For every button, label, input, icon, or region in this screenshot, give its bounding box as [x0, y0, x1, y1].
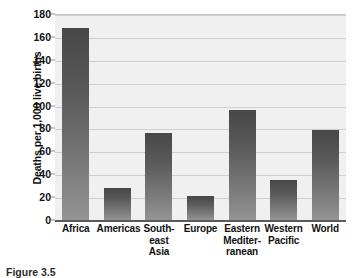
y-tick-label: 140 — [5, 55, 51, 66]
bar — [62, 28, 89, 220]
x-tick-label-line: World — [304, 223, 346, 235]
y-tick-label: 40 — [5, 169, 51, 180]
x-tick-label-line: east — [138, 235, 180, 247]
x-tick-label: Europe — [180, 223, 222, 235]
y-tick-label: 120 — [5, 77, 51, 88]
y-tick-label: 160 — [5, 32, 51, 43]
x-tick-label-line: Asia — [138, 246, 180, 258]
x-tick-label-line: Pacific — [263, 235, 305, 247]
x-tick-label: Africa — [55, 223, 97, 235]
x-tick-label: Americas — [97, 223, 139, 235]
x-tick-label: World — [304, 223, 346, 235]
figure-caption: Figure 3.5 — [6, 266, 56, 278]
x-tick-label-line: Americas — [97, 223, 139, 235]
bar — [229, 110, 256, 220]
x-tick-label: South-eastAsia — [138, 223, 180, 258]
x-tick-label-line: ranean — [221, 246, 263, 258]
bars-layer — [55, 14, 346, 220]
y-tick-label: 0 — [5, 215, 51, 226]
y-tick-label: 180 — [5, 9, 51, 20]
x-tick-label-line: Europe — [180, 223, 222, 235]
x-tick-label-line: Mediter- — [221, 235, 263, 247]
bar — [270, 180, 297, 220]
bar — [104, 188, 131, 220]
x-tick-label-line: Eastern — [221, 223, 263, 235]
bar — [145, 133, 172, 220]
x-axis-line — [55, 220, 346, 222]
x-tick-label-line: Western — [263, 223, 305, 235]
y-tick-label: 60 — [5, 146, 51, 157]
x-tick-label: EasternMediter-ranean — [221, 223, 263, 258]
y-axis-ticks: 020406080100120140160180 — [0, 0, 51, 274]
bar — [312, 130, 339, 220]
y-tick-label: 100 — [5, 100, 51, 111]
x-tick-label-line: Africa — [55, 223, 97, 235]
y-tick-label: 80 — [5, 123, 51, 134]
y-tick-label: 20 — [5, 192, 51, 203]
x-axis-labels: AfricaAmericasSouth-eastAsiaEuropeEaster… — [55, 223, 346, 271]
x-tick-label-line: South- — [138, 223, 180, 235]
x-tick-label: WesternPacific — [263, 223, 305, 246]
bar — [187, 196, 214, 220]
